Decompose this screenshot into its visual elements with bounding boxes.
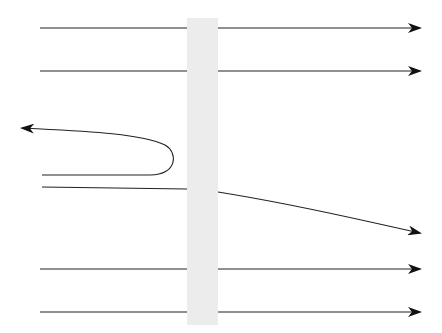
trajectory-lines xyxy=(22,28,420,312)
barrier xyxy=(187,18,218,325)
trajectory-deflected xyxy=(42,187,420,233)
trajectory-diagram xyxy=(0,0,442,333)
trajectory-reflected xyxy=(22,128,173,175)
